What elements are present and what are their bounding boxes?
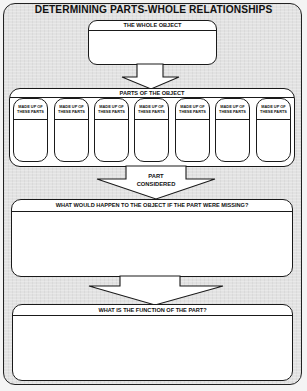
part-input[interactable]: [176, 121, 209, 161]
function-input[interactable]: [13, 316, 292, 380]
function-box: WHAT IS THE FUNCTION OF THE PART?: [12, 304, 293, 381]
part-considered-line2: CONSIDERED: [126, 180, 186, 188]
part-header: MADE UP OF THESE PARTS: [95, 99, 128, 120]
if-missing-box: WHAT WOULD HAPPEN TO THE OBJECT IF THE P…: [11, 199, 293, 277]
part-input[interactable]: [216, 121, 249, 161]
part-header-line2: THESE PARTS: [257, 109, 290, 114]
part-header: MADE UP OF THESE PARTS: [176, 99, 209, 120]
whole-object-box: THE WHOLE OBJECT: [88, 20, 217, 65]
whole-object-input[interactable]: [89, 31, 216, 64]
part-header: MADE UP OF THESE PARTS: [55, 99, 88, 120]
part-input[interactable]: [135, 121, 168, 161]
part-input[interactable]: [14, 121, 47, 161]
part-considered-label: PART CONSIDERED: [126, 172, 186, 188]
part-header-line2: THESE PARTS: [216, 109, 249, 114]
part-input[interactable]: [55, 121, 88, 161]
part-box: MADE UP OF THESE PARTS: [13, 98, 48, 162]
function-header: WHAT IS THE FUNCTION OF THE PART?: [13, 305, 292, 316]
if-missing-input[interactable]: [12, 212, 292, 276]
parts-of-object-header: PARTS OF THE OBJECT: [10, 89, 294, 98]
down-arrow-icon: [120, 64, 182, 90]
part-header: MADE UP OF THESE PARTS: [14, 99, 47, 120]
parts-of-object-container: PARTS OF THE OBJECT MADE UP OF THESE PAR…: [9, 88, 295, 167]
part-box: MADE UP OF THESE PARTS: [94, 98, 129, 162]
part-considered-line1: PART: [126, 172, 186, 180]
part-box: MADE UP OF THESE PARTS: [256, 98, 291, 162]
part-box: MADE UP OF THESE PARTS: [134, 98, 169, 162]
part-header: MADE UP OF THESE PARTS: [257, 99, 290, 120]
part-input[interactable]: [257, 121, 290, 161]
part-header: MADE UP OF THESE PARTS: [216, 99, 249, 120]
if-missing-header: WHAT WOULD HAPPEN TO THE OBJECT IF THE P…: [12, 200, 292, 212]
part-box: MADE UP OF THESE PARTS: [175, 98, 210, 162]
part-header-line2: THESE PARTS: [14, 109, 47, 114]
down-arrow-icon: [87, 276, 225, 306]
part-header: MADE UP OF THESE PARTS: [135, 99, 168, 120]
part-header-line2: THESE PARTS: [135, 109, 168, 114]
worksheet-title: DETERMINING PARTS-WHOLE RELATIONSHIPS: [0, 4, 307, 15]
part-box: MADE UP OF THESE PARTS: [54, 98, 89, 162]
part-header-line2: THESE PARTS: [55, 109, 88, 114]
whole-object-header: THE WHOLE OBJECT: [89, 21, 216, 31]
part-box: MADE UP OF THESE PARTS: [215, 98, 250, 162]
part-header-line2: THESE PARTS: [176, 109, 209, 114]
part-input[interactable]: [95, 121, 128, 161]
part-header-line2: THESE PARTS: [95, 109, 128, 114]
